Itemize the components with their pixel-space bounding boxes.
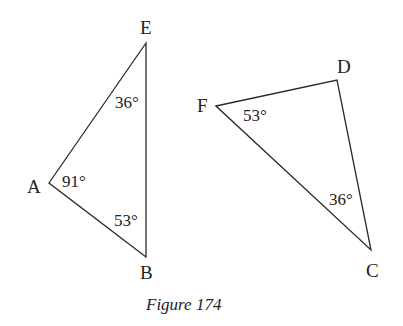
vertex-label-a: A <box>27 176 41 197</box>
angle-label-f: 53° <box>243 106 267 125</box>
vertex-label-d: D <box>337 56 351 77</box>
vertex-label-f: F <box>197 95 208 116</box>
figure-caption: Figure 174 <box>145 295 222 314</box>
vertex-label-c: C <box>366 260 379 281</box>
angle-label-c: 36° <box>329 190 353 209</box>
triangle-cdf: F D C 53° 36° <box>197 56 379 281</box>
vertex-label-b: B <box>140 262 153 283</box>
triangle-abe: E A B 36° 91° 53° <box>27 17 153 283</box>
vertex-label-e: E <box>140 17 152 38</box>
angle-label-a: 91° <box>62 172 86 191</box>
figure-diagram: E A B 36° 91° 53° F D C 53° 36° Figure 1… <box>0 0 403 326</box>
angle-label-e: 36° <box>115 93 139 112</box>
triangle-cdf-outline <box>216 80 371 250</box>
angle-label-b: 53° <box>114 211 138 230</box>
